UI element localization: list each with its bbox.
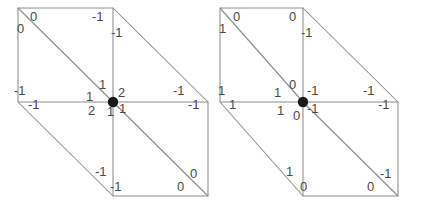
vertex-label: 1 xyxy=(119,102,126,115)
vertex-label: 0 xyxy=(289,10,296,23)
upper-right-connector xyxy=(113,8,208,102)
vertex-label: -1 xyxy=(14,84,26,97)
vertex-label: 1 xyxy=(107,105,114,118)
lower-left-connector xyxy=(18,102,113,196)
vertex-label: 0 xyxy=(293,109,300,122)
lower-square-diagonal xyxy=(113,102,208,196)
lower-left-connector xyxy=(220,102,303,196)
lower-square-diagonal xyxy=(303,102,398,196)
vertex-label: 1 xyxy=(286,165,293,178)
vertex-label: 1 xyxy=(99,78,106,91)
vertex-label: -1 xyxy=(307,102,319,115)
vertex-label: 0 xyxy=(289,78,296,91)
vertex-label: -1 xyxy=(28,98,40,111)
vertex-label: -1 xyxy=(380,167,392,180)
vertex-label: 0 xyxy=(300,180,307,193)
vertex-label: 0 xyxy=(177,180,184,193)
vertex-label: 0 xyxy=(17,22,24,35)
vertex-label: -1 xyxy=(92,10,104,23)
vertex-label: 2 xyxy=(88,104,95,117)
vertex-label: -1 xyxy=(111,26,123,39)
vertex-label: 1 xyxy=(229,98,236,111)
vertex-label: 2 xyxy=(118,86,125,99)
left-diagram: 0 0 -1 -1 -1 -1 1 1 2 2 1 1 -1 -1 -1 -1 … xyxy=(0,0,215,204)
vertex-label: -1 xyxy=(173,84,185,97)
vertex-label: -1 xyxy=(95,165,107,178)
vertex-label: 1 xyxy=(219,22,226,35)
vertex-label: -1 xyxy=(378,98,390,111)
diagram-canvas: 0 0 -1 -1 -1 -1 1 1 2 2 1 1 -1 -1 -1 -1 … xyxy=(0,0,430,204)
vertex-label: 1 xyxy=(86,90,93,103)
vertex-label: 0 xyxy=(190,167,197,180)
vertex-label: 0 xyxy=(30,10,37,23)
vertex-label: 1 xyxy=(274,86,281,99)
vertex-label: -1 xyxy=(188,98,200,111)
vertex-label: -1 xyxy=(110,180,122,193)
vertex-label: 0 xyxy=(233,10,240,23)
vertex-label: 1 xyxy=(277,104,284,117)
vertex-label: 0 xyxy=(367,180,374,193)
right-diagram-graphics xyxy=(215,0,430,204)
vertex-label: 1 xyxy=(218,84,225,97)
right-diagram: 1 0 0 -1 1 1 0 1 -1 1 -1 0 -1 -1 1 0 0 -… xyxy=(215,0,430,204)
vertex-label: -1 xyxy=(307,84,319,97)
vertex-label: -1 xyxy=(301,26,313,39)
vertex-label: -1 xyxy=(363,84,375,97)
